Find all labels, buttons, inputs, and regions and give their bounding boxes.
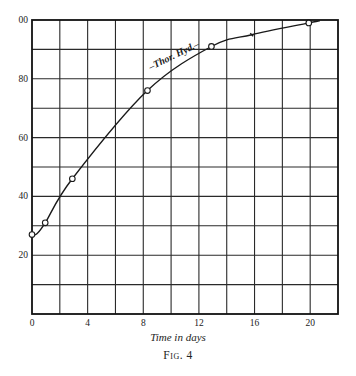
x-axis-ticks: 048121620 <box>30 318 316 328</box>
data-point-marker <box>306 20 312 26</box>
y-tick-label: 20 <box>19 250 29 260</box>
y-tick-label: 60 <box>19 133 29 143</box>
figure-caption: Fig. 4 <box>0 349 356 361</box>
x-tick-label: 12 <box>194 318 204 328</box>
x-tick-label: 20 <box>305 318 315 328</box>
data-point-marker <box>70 176 76 182</box>
y-tick-label: 80 <box>19 74 29 84</box>
data-point-marker <box>145 88 151 94</box>
x-tick-label: 4 <box>85 318 90 328</box>
data-point-marker <box>29 232 35 238</box>
curve-annotations: –Thor. Hyd.– <box>146 38 201 72</box>
x-tick-label: 0 <box>30 318 35 328</box>
y-axis-ticks: 2040608000 <box>19 15 29 260</box>
y-tick-label: 00 <box>19 15 29 25</box>
data-point-marker <box>209 44 215 50</box>
x-axis-label: Time in days <box>0 331 356 343</box>
x-tick-label: 8 <box>141 318 146 328</box>
series-annotation: –Thor. Hyd.– <box>146 38 201 72</box>
y-tick-label: 40 <box>19 191 29 201</box>
data-point-marker <box>42 220 48 226</box>
x-tick-label: 16 <box>250 318 260 328</box>
grid <box>32 20 338 314</box>
chart: 2040608000 048121620 –Thor. Hyd.– <box>0 0 356 330</box>
